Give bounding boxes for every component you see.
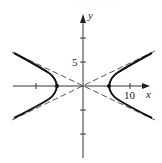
y-tick-label-5: 5: [72, 56, 78, 68]
x-axis-label: x: [145, 88, 151, 100]
hyperbola-plot: 10 x 5 y: [0, 0, 162, 163]
y-axis: 5 y: [72, 9, 93, 158]
x-axis: 10 x: [13, 83, 151, 101]
vertex-left: [55, 84, 59, 88]
y-axis-arrow-icon: [80, 14, 86, 23]
x-tick-label-10: 10: [124, 89, 136, 101]
y-axis-label: y: [87, 9, 93, 21]
vertex-right: [107, 84, 111, 88]
